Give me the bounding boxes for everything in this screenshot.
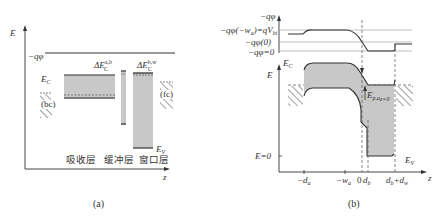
a-window-band <box>133 73 153 148</box>
b-potential-curve <box>288 30 412 51</box>
a-delta-ec-ab-label: ΔEa,bC <box>93 59 112 72</box>
a-absorber-band <box>64 75 115 99</box>
b-ev-label: EV <box>404 155 416 166</box>
b-e-zero-label: E=0 <box>254 151 272 161</box>
b-tick-label-db: db <box>363 175 371 186</box>
b-pot-label-zero: −qφ=0 <box>248 47 275 57</box>
b-ec-label: EC <box>282 58 294 69</box>
b-energy-axis-label: E <box>266 70 273 80</box>
a-layer-absorber: 吸收层 <box>66 154 96 165</box>
a-caption: (a) <box>93 198 104 210</box>
b-tick-label-wa: −wa <box>336 175 351 186</box>
b-potential-axis-arrow-icon <box>277 15 281 21</box>
a-ec-label: EC <box>40 74 52 85</box>
b-energy-axis-arrow-icon <box>277 64 281 70</box>
b-x-axis-label: z <box>427 173 432 183</box>
panel-a: E z −qφ EC EV ΔEa,bC ΔEb,wC (bc) (fc <box>9 25 175 210</box>
b-front-contact-hatch <box>396 86 413 106</box>
b-back-contact-hatch <box>288 86 303 106</box>
a-x-axis-arrow-icon <box>164 167 170 171</box>
b-potential-axis-label: −qφ <box>260 11 276 21</box>
a-bc-hatch-bottom <box>40 109 52 118</box>
b-pot-label-vbi: −qφ(−wa)=qVbi <box>220 25 278 36</box>
b-x-axis-arrow-icon <box>421 170 427 174</box>
a-layer-buffer: 缓冲层 <box>104 154 134 165</box>
b-tick-label-da: −da <box>297 175 311 186</box>
b-tick-label-zero: 0 <box>357 175 362 185</box>
a-back-contact-label: (bc) <box>41 99 56 109</box>
a-delta-ec-bw-label: ΔEb,wC <box>136 59 157 72</box>
b-caption: (b) <box>348 198 360 210</box>
a-y-axis-arrow-icon <box>23 25 27 31</box>
panel-b: −qφ −qφ(−wa)=qVbi −qφ(0) −qφ=0 E EC z <box>220 11 432 210</box>
figure-canvas: E z −qφ EC EV ΔEa,bC ΔEb,wC (bc) (fc <box>0 0 441 218</box>
a-buffer-band <box>121 71 126 125</box>
a-front-contact-label: (fc) <box>160 89 173 99</box>
b-tick-label-dbdw: db+dw <box>386 175 408 186</box>
a-fc-hatch-bottom <box>160 99 173 109</box>
b-band-region <box>304 63 394 156</box>
a-layer-window: 窗口层 <box>139 154 169 165</box>
a-y-axis-label: E <box>9 28 16 38</box>
a-vacuum-label: −qφ <box>28 51 44 61</box>
a-x-axis-label: z <box>162 172 167 182</box>
b-pot-label-phi0: −qφ(0) <box>245 37 271 47</box>
